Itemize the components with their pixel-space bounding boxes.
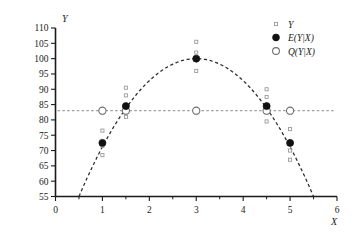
scatter-plot-figure: 556065707580859095100105110 0123456 Y X … (0, 0, 358, 242)
data-point-y (265, 88, 268, 91)
data-point-y (101, 129, 104, 132)
y-axis-tick-labels: 556065707580859095100105110 (34, 23, 49, 202)
y-axis-title: Y (62, 13, 69, 24)
legend-marker-e (273, 34, 280, 41)
data-point-y (195, 69, 198, 72)
data-point-e (122, 103, 129, 110)
legend-label: E(Y|X) (287, 33, 314, 44)
data-point-e (99, 139, 106, 146)
chart-legend: YE(Y|X)Q(Y|X) (273, 20, 315, 58)
data-point-y (124, 94, 127, 97)
conditional-mean-curve (79, 59, 314, 197)
series-e-points (99, 55, 294, 146)
y-tick-label: 105 (34, 39, 49, 49)
data-point-e (287, 139, 294, 146)
data-point-q (99, 107, 106, 114)
x-tick-label: 2 (147, 205, 152, 215)
data-point-e (193, 55, 200, 62)
data-point-e (263, 103, 270, 110)
y-tick-label: 75 (39, 131, 49, 141)
legend-label: Q(Y|X) (288, 47, 315, 58)
y-tick-label: 110 (35, 23, 49, 33)
y-tick-label: 100 (34, 54, 49, 64)
chart-svg: 556065707580859095100105110 0123456 Y X … (0, 0, 358, 242)
data-point-q (286, 107, 293, 114)
x-tick-label: 4 (241, 205, 246, 215)
x-axis-tick-labels: 0123456 (53, 205, 340, 215)
data-point-y (289, 149, 292, 152)
y-tick-label: 90 (39, 85, 49, 95)
x-tick-label: 0 (53, 205, 58, 215)
y-tick-label: 85 (39, 100, 49, 110)
legend-label: Y (288, 20, 295, 30)
x-tick-label: 6 (335, 205, 340, 215)
data-point-y (289, 128, 292, 131)
x-tick-label: 1 (100, 205, 105, 215)
x-tick-label: 5 (288, 205, 293, 215)
data-point-y (195, 40, 198, 43)
legend-marker-y (274, 22, 277, 25)
x-tick-label: 3 (194, 205, 199, 215)
y-tick-label: 80 (39, 115, 49, 125)
y-tick-label: 55 (39, 192, 49, 202)
y-tick-label: 60 (39, 177, 49, 187)
y-tick-label: 65 (39, 161, 49, 171)
data-point-q (193, 107, 200, 114)
data-point-y (265, 120, 268, 123)
y-tick-label: 95 (39, 69, 49, 79)
data-point-y (101, 154, 104, 157)
x-axis-title: X (330, 216, 338, 227)
legend-marker-q (273, 48, 280, 55)
y-tick-label: 70 (39, 146, 49, 156)
data-point-y (265, 95, 268, 98)
data-point-y (124, 115, 127, 118)
data-point-y (289, 158, 292, 161)
data-point-y (124, 86, 127, 89)
data-point-y (195, 51, 198, 54)
